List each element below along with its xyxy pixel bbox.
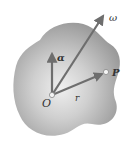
- label-r: r: [75, 93, 80, 103]
- point-p: [103, 69, 108, 74]
- label-p: P: [111, 67, 120, 78]
- label-alpha: α: [57, 52, 65, 63]
- rigid-body-diagram: O ω α P r: [0, 0, 130, 142]
- rigid-body-shape: [13, 23, 120, 136]
- label-origin: O: [42, 97, 51, 110]
- label-omega: ω: [109, 12, 117, 23]
